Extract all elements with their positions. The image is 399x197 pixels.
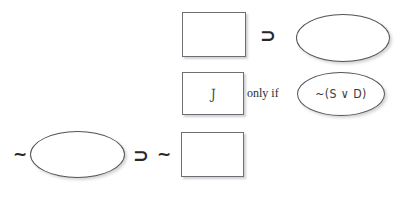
blank-ellipse-2[interactable] xyxy=(30,131,125,178)
tilde-1: ~ xyxy=(11,144,29,164)
horseshoe-2: ⊃ xyxy=(131,144,151,166)
logic-diagram-canvas: ⊃ J only if ~(S ∨ D) ~ ⊃ ~ xyxy=(0,0,399,197)
ellipse-formula-content: ~(S ∨ D) xyxy=(315,87,367,102)
tilde-2: ~ xyxy=(155,144,173,164)
box-with-j-content: J xyxy=(210,85,215,102)
blank-box-2[interactable] xyxy=(181,132,244,177)
ellipse-formula[interactable]: ~(S ∨ D) xyxy=(297,72,385,116)
box-with-j[interactable]: J xyxy=(182,72,244,115)
blank-box-1[interactable] xyxy=(182,12,246,57)
only-if-connective: only if xyxy=(247,87,295,101)
blank-ellipse-1[interactable] xyxy=(296,14,390,62)
horseshoe-1: ⊃ xyxy=(258,24,278,46)
